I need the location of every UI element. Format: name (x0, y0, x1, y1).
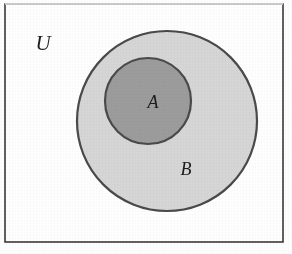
venn-diagram-figure: U A B (0, 0, 292, 254)
set-a-label: A (147, 92, 160, 112)
set-b-label: B (181, 159, 192, 179)
universal-set-label: U (35, 31, 52, 55)
venn-diagram-canvas: U A B (0, 0, 292, 254)
